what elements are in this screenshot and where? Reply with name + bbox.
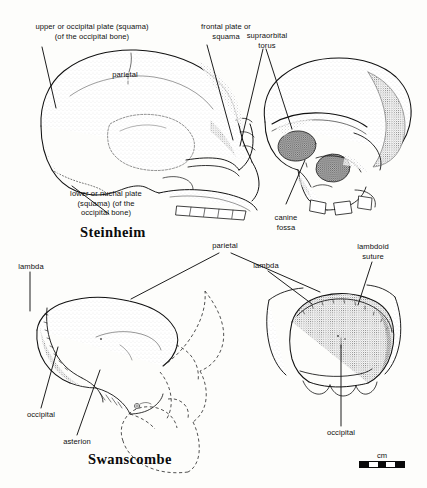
scale-bar: [359, 461, 405, 468]
steinheim-facial-drawing: [264, 58, 411, 215]
caption-swanscombe: Swanscombe: [88, 451, 172, 468]
scale-segment-3: [386, 462, 395, 467]
label-lower-nuchal-plate: lower or nuchal plate (squama) (of the o…: [50, 189, 162, 218]
scale-unit-label: cm: [359, 451, 405, 460]
scale-segment-2: [378, 462, 387, 467]
label-parietal-swanscombe: parietal: [196, 241, 254, 251]
label-occipital-left: occipital: [12, 410, 70, 420]
swanscombe-lateral-drawing: [37, 297, 178, 414]
figure-plate: upper or occipital plate (squama) (of th…: [0, 0, 427, 488]
label-asterion: asterion: [49, 437, 105, 447]
label-lambda-right: lambda: [238, 261, 294, 271]
scale-bar-group: cm: [359, 451, 405, 468]
scale-segment-1: [369, 462, 378, 467]
scale-segment-4: [395, 462, 404, 467]
label-canine-fossa: canine fossa: [258, 213, 314, 232]
label-lambda-left: lambda: [3, 262, 59, 272]
label-upper-occipital-plate: upper or occipital plate (squama) (of th…: [8, 22, 176, 41]
label-lambdoid-suture: lambdoid suture: [340, 242, 406, 261]
label-supraorbital-torus: supraorbital torus: [228, 31, 306, 50]
label-occipital-right: occipital: [313, 428, 369, 438]
scale-segment-0: [360, 462, 369, 467]
swanscombe-posterior-drawing: [267, 285, 401, 396]
caption-steinheim: Steinheim: [80, 224, 146, 241]
label-parietal-steinheim: parietal: [95, 70, 155, 80]
